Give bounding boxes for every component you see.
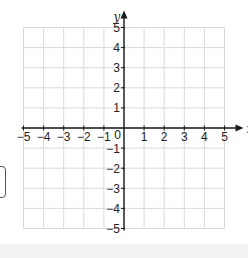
x-tick-label: 4 [201,130,208,144]
x-tick-label: −2 [77,130,91,144]
y-tick-label: 2 [113,81,120,95]
x-tick-label: 5 [221,130,228,144]
y-axis-label: y [113,10,121,24]
x-tick-label: −4 [37,130,51,144]
x-axis-arrow-icon [236,125,244,132]
x-axis-label: x [247,122,249,136]
x-tick-label: 2 [161,130,168,144]
x-tick-label: −3 [57,130,71,144]
y-axis-arrow-icon [121,11,128,19]
x-tick-label: 1 [141,130,148,144]
y-tick-label: −3 [106,182,120,196]
origin-label: 0 [114,128,121,142]
x-tick-label: 3 [181,130,188,144]
y-tick-label: 4 [113,41,120,55]
y-tick-label: 3 [113,61,120,75]
coordinate-plane: −5−4−3−2−112345−5−4−3−2−1123450xy [0,0,248,258]
axes [22,11,244,231]
tick-labels: −5−4−3−2−112345−5−4−3−2−1123450xy [17,10,248,237]
y-tick-label: 1 [113,101,120,115]
y-tick-label: −1 [106,142,120,156]
y-tick-label: −5 [106,222,120,236]
y-tick-label: −2 [106,162,120,176]
bottom-bar [0,244,248,258]
x-tick-label: −5 [17,130,31,144]
y-tick-label: −4 [106,202,120,216]
